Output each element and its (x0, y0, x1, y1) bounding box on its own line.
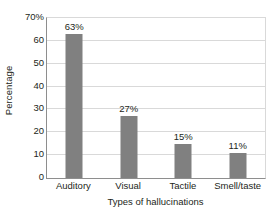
bars-layer: 63%27%15%11% (47, 18, 265, 178)
y-axis-tick-label: 50 (16, 58, 44, 68)
bar-chart: Percentage 010203040506070% 63%27%15%11%… (0, 0, 280, 224)
bar[interactable] (66, 34, 83, 178)
bar-group: 11% (211, 18, 266, 178)
x-axis-tick-label: Smell/taste (214, 180, 261, 192)
bar[interactable] (175, 144, 192, 178)
y-axis-tick-label: 20 (16, 126, 44, 136)
x-axis-tick-label: Auditory (56, 180, 91, 192)
bar-value-label: 27% (119, 104, 138, 114)
y-axis-tick-label: 60 (16, 35, 44, 45)
x-axis-title: Types of hallucinations (46, 196, 265, 207)
y-axis-tick-label: 10 (16, 149, 44, 159)
x-axis-tick-label: Tactile (169, 180, 196, 192)
bar-group: 27% (102, 18, 157, 178)
bar-group: 15% (156, 18, 211, 178)
bar-group: 63% (47, 18, 102, 178)
y-axis-title-text: Percentage (4, 65, 15, 115)
y-axis-tick-label: 40 (16, 81, 44, 91)
bar[interactable] (229, 153, 246, 178)
bar-value-label: 15% (174, 132, 193, 142)
y-axis-tick-label: 70% (16, 12, 44, 22)
bar-value-label: 63% (65, 22, 84, 32)
y-axis-tick-label: 0 (16, 172, 44, 182)
x-axis-tick-labels: AuditoryVisualTactileSmell/taste (46, 180, 265, 196)
y-axis-tick-label: 30 (16, 103, 44, 113)
plot-area: 63%27%15%11% (46, 17, 266, 179)
bar[interactable] (120, 116, 137, 178)
bar-value-label: 11% (229, 141, 247, 151)
y-axis-tick-labels: 010203040506070% (16, 0, 44, 224)
x-axis-tick-label: Visual (115, 180, 141, 192)
